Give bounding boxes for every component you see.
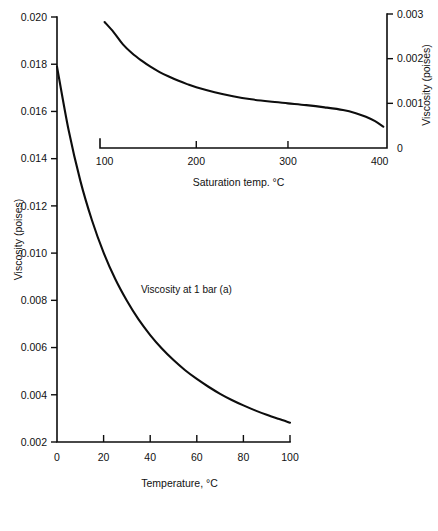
inset-axes [100,14,387,148]
main-x-tick-label: 60 [191,451,203,463]
inset-y-axis-title: Viscosity (poises) [420,44,432,126]
main-x-tick-label: 0 [54,451,60,463]
main-y-tick-label: 0.012 [21,200,47,212]
main-curve-annotation: Viscosity at 1 bar (a) [141,284,232,295]
inset-x-axis-title: Saturation temp. °C [193,176,285,188]
inset-y-tick-label: 0 [397,142,403,154]
main-x-axis-title: Temperature, °C [141,477,218,489]
main-y-tick-label: 0.010 [21,247,47,259]
main-viscosity-curve [57,67,290,423]
main-y-tick-label: 0.018 [21,58,47,70]
inset-x-tick-label: 400 [371,155,389,167]
main-y-axis-title: Viscosity (poises) [12,199,24,281]
main-y-tick-group: 0.0020.0040.0060.0080.0100.0120.0140.016… [21,11,57,448]
main-x-tick-group: 020406080100 [54,435,299,463]
main-x-tick-label: 100 [281,451,299,463]
main-y-tick-label: 0.014 [21,152,47,164]
viscosity-figure: 0.0020.0040.0060.0080.0100.0120.0140.016… [0,0,438,531]
main-curve-group [57,67,290,423]
main-x-tick-label: 20 [98,451,110,463]
inset-y-tick-group: 00.0010.0020.003 [387,8,423,154]
main-y-tick-label: 0.016 [21,105,47,117]
main-x-tick-label: 80 [238,451,250,463]
main-y-tick-label: 0.002 [21,436,47,448]
main-y-tick-label: 0.004 [21,389,47,401]
inset-plot: 00.0010.0020.003 100200300400 Saturation… [96,8,432,188]
main-x-tick-label: 40 [144,451,156,463]
inset-x-tick-label: 200 [188,155,206,167]
inset-curve-group [105,22,384,127]
main-axes [57,17,290,442]
main-y-tick-label: 0.008 [21,294,47,306]
inset-x-tick-group: 100200300400 [96,141,389,167]
chart-page: 0.0020.0040.0060.0080.0100.0120.0140.016… [0,0,438,531]
main-y-tick-label: 0.006 [21,341,47,353]
inset-x-tick-label: 300 [279,155,297,167]
main-annotation-group: Viscosity at 1 bar (a) [141,284,232,295]
inset-y-tick-label: 0.003 [397,8,423,20]
main-y-tick-label: 0.020 [21,11,47,23]
inset-x-tick-label: 100 [96,155,114,167]
inset-viscosity-curve [105,22,384,127]
main-plot: 0.0020.0040.0060.0080.0100.0120.0140.016… [12,11,299,489]
